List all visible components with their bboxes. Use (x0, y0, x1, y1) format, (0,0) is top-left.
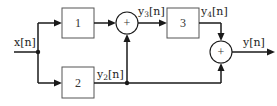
summer-2-plus: + (218, 45, 225, 59)
block-diagram: x[n] 1 2 + y2[n] y3[n] 3 y4[n] + (0, 0, 277, 106)
block-2: 2 (62, 67, 94, 98)
block-2-label: 2 (75, 76, 81, 90)
summer-1: + (116, 12, 138, 34)
input-label: x[n] (14, 36, 36, 49)
y4-label: y4[n] (200, 5, 228, 19)
block-1: 1 (62, 8, 94, 38)
input-wiring (14, 20, 62, 87)
summer-1-plus: + (124, 16, 131, 30)
block-1-label: 1 (75, 16, 81, 30)
block-3-label: 3 (180, 16, 186, 30)
block-3: 3 (167, 8, 199, 38)
summer-2: + (210, 41, 232, 63)
y3-label: y3[n] (137, 5, 165, 19)
y2-label: y2[n] (96, 68, 124, 82)
output-label: y[n] (242, 36, 265, 49)
input-junction-dot (36, 50, 40, 54)
